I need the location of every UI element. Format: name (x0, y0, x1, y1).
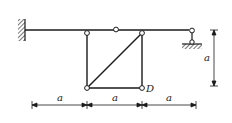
node-label-D: D (145, 83, 154, 94)
dim-label-a3: a (166, 92, 172, 103)
dim-label-a2: a (112, 92, 118, 103)
structural-frame-diagram: D a a a a (0, 0, 232, 123)
hinge-bottom-left (85, 86, 90, 91)
diagonal-member (88, 34, 141, 87)
truss-panel (87, 33, 142, 88)
hinge-support (190, 40, 194, 44)
hinge-beam-mid (114, 27, 119, 32)
hinge-node-D (140, 86, 145, 91)
hinge-beam-end (190, 28, 195, 33)
dim-label-av: a (204, 52, 210, 63)
vertical-dimension (210, 30, 218, 86)
hinge-right-top (140, 31, 145, 36)
fixed-wall-support (18, 19, 25, 41)
dim-label-a1: a (57, 92, 63, 103)
hinge-nodes (85, 27, 195, 90)
hinge-left-top (85, 31, 90, 36)
